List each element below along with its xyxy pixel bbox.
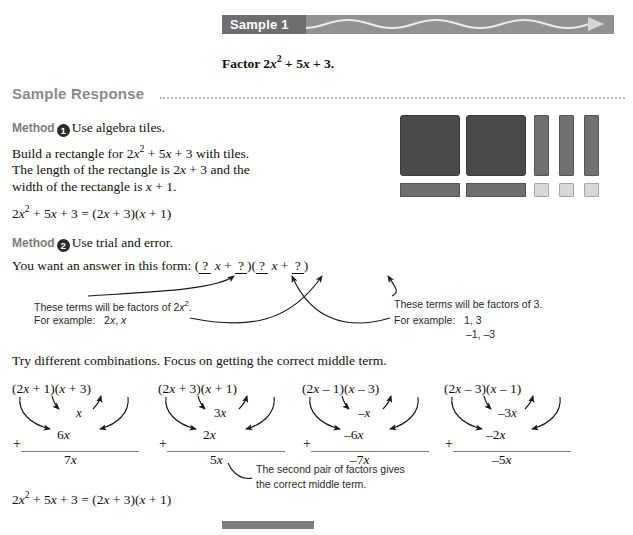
tile-x-vertical: [584, 115, 599, 176]
annotation-right-line1: These terms will be factors of 3.: [394, 297, 542, 311]
combination-inner-term: –x: [358, 405, 370, 421]
combination-expression: (2x – 1)(x – 3): [302, 381, 379, 397]
combination-sum-rule: [453, 451, 571, 452]
blank-1: ?: [199, 258, 211, 274]
method2-form-line: You want an answer in this form: (? x + …: [12, 257, 308, 274]
method1-equation: 2x2 + 5x + 3 = (2x + 3)(x + 1): [12, 200, 171, 222]
combination-inner-term: 3x: [214, 405, 226, 421]
method1-label: Method: [12, 121, 55, 135]
annotation-right-line3: –1, –3: [466, 327, 495, 341]
prompt-prefix: Factor 2: [222, 56, 270, 71]
sample-response-rule: [160, 97, 625, 101]
method1-badge: 1: [57, 124, 70, 137]
combination-expression: (2x – 3)(x – 1): [444, 381, 521, 397]
combination-outer-term: 6x: [57, 427, 70, 443]
blank-2: ?: [235, 258, 247, 274]
callout-line1: The second pair of factors gives: [256, 462, 405, 476]
combination-group-3: (2x – 1)(x – 3) –x –6x + –7x: [302, 381, 452, 469]
combination-plus-sign: +: [159, 436, 167, 452]
combination-total: 5x: [210, 452, 223, 468]
combination-outer-term: 2x: [203, 427, 216, 443]
combination-group-2: (2x + 3)(x + 1) 3x 2x + 5x: [158, 381, 308, 469]
try-combinations-line: Try different combinations. Focus on get…: [12, 352, 387, 369]
tile-x-vertical: [534, 115, 549, 176]
combination-inner-term: –3x: [498, 405, 517, 421]
combination-outer-term: –6x: [344, 427, 364, 443]
method1-title: Use algebra tiles.: [72, 120, 165, 135]
combination-outer-term: –2x: [486, 427, 506, 443]
annotation-left-line1: These terms will be factors of 2x2.: [34, 297, 192, 314]
algebra-tiles-diagram: [398, 115, 628, 200]
method2-badge: 2: [57, 239, 70, 252]
tile-x-horizontal: [400, 183, 460, 197]
combination-group-1: (2x + 1)(x + 3) x 6x + 7x: [12, 381, 162, 469]
blank-4: ?: [292, 258, 304, 274]
tile-x-horizontal: [466, 183, 526, 197]
combination-plus-sign: +: [445, 436, 453, 452]
final-equation: 2x2 + 5x + 3 = (2x + 3)(x + 1): [12, 486, 171, 508]
tile-unit: [559, 183, 574, 197]
footer-bar: [222, 521, 314, 529]
combination-inner-term: x: [76, 405, 82, 421]
banner-wave-icon: [302, 15, 614, 34]
combination-sum-rule: [311, 451, 429, 452]
factor-prompt: Factor 2x2 + 5x + 3.: [222, 53, 334, 72]
callout-line2: the correct middle term.: [256, 477, 366, 491]
method2-label: Method: [12, 236, 55, 250]
method1-heading: Method1Use algebra tiles.: [12, 120, 165, 137]
banner-label: Sample 1: [222, 15, 306, 34]
method1-line2: The length of the rectangle is 2x + 3 an…: [12, 161, 250, 195]
worksheet-page: Sample 1 Factor 2x2 + 5x + 3. Sample Res…: [0, 0, 633, 535]
prompt-rest: + 5x + 3.: [282, 56, 335, 71]
tile-unit: [584, 183, 599, 197]
prompt-variable: x: [270, 56, 277, 71]
annotation-left-example-label: For example:: [34, 314, 95, 326]
sample-banner: Sample 1: [222, 15, 614, 34]
combination-sum-rule: [167, 451, 285, 452]
annotation-left-line2: For example: 2x, x: [34, 313, 126, 327]
combination-plus-sign: +: [13, 436, 21, 452]
banner-label-text: Sample 1: [230, 17, 289, 32]
tile-x-squared: [400, 115, 460, 176]
method2-title: Use trial and error.: [72, 235, 173, 250]
tile-x-vertical: [559, 115, 574, 176]
combination-group-4: (2x – 3)(x – 1) –3x –2x + –5x: [444, 381, 594, 469]
annotation-right-example-value: 1, 3: [464, 314, 482, 326]
form-lead: You want an answer in this form:: [12, 258, 191, 273]
annotation-right-line2: For example: 1, 3: [394, 313, 482, 327]
blank-3: ?: [256, 258, 268, 274]
combination-plus-sign: +: [303, 436, 311, 452]
method2-heading: Method2Use trial and error.: [12, 235, 173, 252]
sample-response-heading: Sample Response: [12, 85, 144, 102]
combination-expression: (2x + 1)(x + 3): [12, 381, 91, 397]
method1-line1: Build a rectangle for 2x2 + 5x + 3 with …: [12, 140, 249, 162]
combination-total: –5x: [492, 452, 512, 468]
annotation-right-example-label: For example:: [394, 314, 455, 326]
tile-unit: [534, 183, 549, 197]
tile-x-squared: [466, 115, 526, 176]
combination-sum-rule: [21, 451, 139, 452]
combination-expression: (2x + 3)(x + 1): [158, 381, 237, 397]
combination-total: 7x: [64, 452, 77, 468]
